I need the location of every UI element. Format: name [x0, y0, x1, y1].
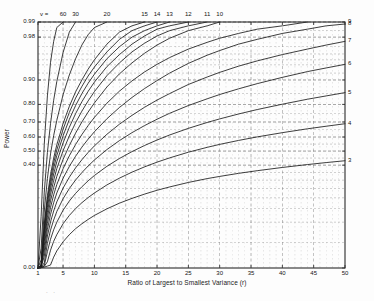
x-tick-label: 15: [117, 270, 135, 276]
power-curve: [38, 22, 170, 268]
x-tick-label: 25: [179, 270, 197, 276]
x-tick-label: 40: [273, 270, 291, 276]
right-curve-label-v8: 8: [348, 20, 351, 26]
y-tick-label: 0.80: [2, 100, 35, 106]
power-curve: [38, 22, 145, 268]
power-curve: [38, 41, 345, 268]
y-tick-label: 0.50: [2, 147, 35, 153]
power-curve: [38, 24, 345, 268]
top-curve-label-v13: 13: [161, 11, 179, 17]
x-tick-label: 45: [305, 270, 323, 276]
right-curve-label-v3: 3: [348, 157, 351, 163]
right-curve-label-v4: 4: [348, 120, 351, 126]
power-curve: [38, 124, 345, 268]
top-curve-label-v12: 12: [179, 11, 197, 17]
top-curve-label-v10: 10: [211, 11, 229, 17]
x-tick-label: 1: [29, 270, 47, 276]
y-tick-label: 0.60: [2, 133, 35, 139]
scan-artifact-mark: . .: [46, 288, 57, 294]
power-curve: [38, 22, 207, 268]
power-curve: [38, 22, 307, 268]
x-tick-label: 20: [148, 270, 166, 276]
parameter-symbol-label: v =: [40, 11, 48, 17]
y-tick-label: 0.99: [2, 18, 35, 24]
right-curve-label-v7: 7: [348, 37, 351, 43]
power-curve: [38, 22, 157, 268]
power-curve-figure: v = Ratio of Largest to Smallest Varianc…: [0, 0, 374, 301]
y-tick-label: 0.40: [2, 161, 35, 167]
chart-canvas: [0, 0, 374, 301]
x-tick-label: 5: [54, 270, 72, 276]
x-tick-label: 10: [85, 270, 103, 276]
power-curve: [38, 64, 345, 268]
top-curve-label-v20: 20: [98, 11, 116, 17]
x-tick-label: 35: [242, 270, 260, 276]
x-tick-label: 30: [211, 270, 229, 276]
right-curve-label-v5: 5: [348, 89, 351, 95]
power-curve: [38, 161, 345, 268]
y-tick-label: 0.98: [2, 33, 35, 39]
y-tick-label: 0.70: [2, 118, 35, 124]
x-axis-title: Ratio of Largest to Smallest Variance (r…: [0, 279, 374, 286]
right-curve-label-v6: 6: [348, 60, 351, 66]
x-tick-label: 50: [336, 270, 354, 276]
top-curve-label-v30: 30: [67, 11, 85, 17]
y-tick-label: 0.90: [2, 76, 35, 82]
